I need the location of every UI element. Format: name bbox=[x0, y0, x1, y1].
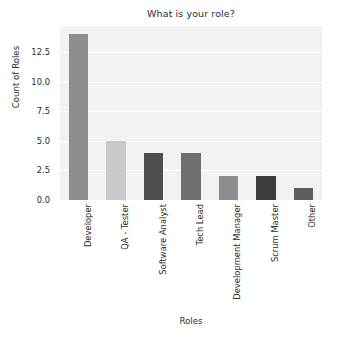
x-axis-tick: Tech Lead bbox=[195, 204, 205, 246]
gridline bbox=[60, 52, 322, 53]
chart-figure: What is your role? 0.02.55.07.510.012.5 … bbox=[0, 0, 337, 344]
bar bbox=[256, 176, 275, 200]
x-axis-tick: QA - Tester bbox=[120, 204, 130, 250]
x-axis-tick: Development Manager bbox=[232, 204, 242, 300]
x-axis-tick: Other bbox=[307, 204, 317, 228]
gridline bbox=[60, 111, 322, 112]
bar bbox=[219, 176, 238, 200]
bar bbox=[294, 188, 313, 200]
y-axis-tick: 12.5 bbox=[31, 47, 50, 57]
gridline bbox=[60, 82, 322, 83]
bar bbox=[106, 141, 125, 200]
y-axis-tick-labels: 0.02.55.07.510.012.5 bbox=[0, 26, 56, 200]
x-axis-tick: Developer bbox=[83, 204, 93, 247]
bar bbox=[181, 153, 200, 200]
bar bbox=[144, 153, 163, 200]
x-axis-tick: Software Analyst bbox=[158, 204, 168, 275]
plot-area bbox=[60, 26, 322, 200]
y-axis-tick: 5.0 bbox=[37, 136, 50, 146]
bar bbox=[69, 34, 88, 200]
x-axis-label: Roles bbox=[60, 316, 322, 326]
x-axis-tick: Scrum Master bbox=[270, 204, 280, 262]
y-axis-tick: 7.5 bbox=[37, 106, 50, 116]
gridline bbox=[60, 141, 322, 142]
y-axis-label: Count of Roles bbox=[11, 17, 21, 137]
x-axis-tick-labels: DeveloperQA - TesterSoftware AnalystTech… bbox=[60, 200, 322, 308]
y-axis-tick: 10.0 bbox=[31, 77, 50, 87]
y-axis-tick: 0.0 bbox=[37, 195, 50, 205]
y-axis-tick: 2.5 bbox=[37, 165, 50, 175]
chart-title: What is your role? bbox=[60, 8, 322, 19]
